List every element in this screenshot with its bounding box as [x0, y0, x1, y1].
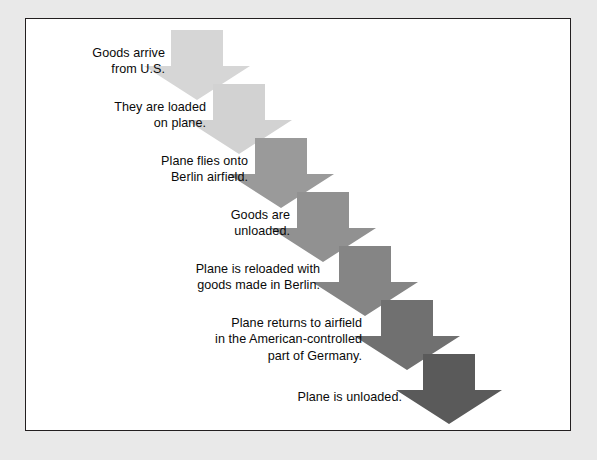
flow-step-2-label: They are loaded on plane.	[51, 99, 206, 132]
process-flow-diagram: Goods arrive from U.S. They are loaded o…	[26, 19, 572, 432]
flow-step-1-label: Goods arrive from U.S.	[35, 45, 165, 78]
figure-frame: Goods arrive from U.S. They are loaded o…	[25, 18, 571, 431]
arrow-shape	[396, 354, 502, 424]
flow-step-5-label: Plane is reloaded with goods made in Ber…	[124, 261, 320, 294]
flow-step-6-label: Plane returns to airfield in the America…	[144, 315, 362, 364]
flow-step-3-label: Plane flies onto Berlin airfield.	[93, 153, 248, 186]
flow-step-7-label: Plane is unloaded.	[244, 389, 402, 405]
down-arrow-icon-7	[396, 354, 502, 424]
flow-step-4-label: Goods are unloaded.	[150, 207, 290, 240]
